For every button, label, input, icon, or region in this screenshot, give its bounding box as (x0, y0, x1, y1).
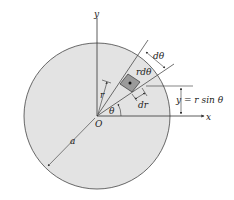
origin-label: O (95, 119, 103, 129)
dtheta-label: dθ (153, 51, 165, 61)
y-equation-label: y = r sin θ (175, 95, 224, 105)
r-label: r (100, 90, 105, 100)
dr-label: dr (138, 100, 149, 110)
radius-a-label: a (70, 136, 75, 146)
rdtheta-label: rdθ (136, 67, 152, 77)
polar-area-diagram: y = r sin θ r θ dθ rdθ dr a y x O (0, 0, 234, 200)
element-centroid (129, 82, 132, 85)
theta-label: θ (109, 106, 115, 116)
y-axis-label: y (93, 9, 100, 19)
x-axis-label: x (206, 112, 211, 122)
